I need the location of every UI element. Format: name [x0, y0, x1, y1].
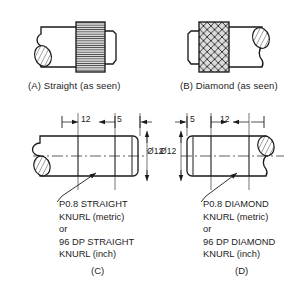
view-c-dim-5-label: 5 — [117, 114, 122, 124]
view-b-diamond-knurl-pictorial — [188, 22, 272, 72]
knurl-drawing-sheet: (A) Straight (as seen) (B) Diamond (as s… — [0, 0, 308, 295]
view-c-note-line-4: 96 DP STRAIGHT — [59, 236, 134, 249]
view-d-note-line-1: P0.8 DIAMOND — [203, 198, 275, 211]
view-d-dim-5-label: 5 — [190, 114, 195, 124]
view-a-straight-knurl-zone — [76, 22, 105, 72]
view-c-note-line-3: or — [59, 223, 134, 236]
view-d-note-line-5: KNURL (inch) — [203, 248, 275, 261]
view-d-note-line-3: or — [203, 223, 275, 236]
view-c-note-line-1: P0.8 STRAIGHT — [59, 198, 134, 211]
view-b-end-collar — [188, 31, 200, 64]
view-b-diamond-knurl-zone — [199, 22, 229, 72]
view-d-diamond-knurl-orthographic — [175, 113, 284, 202]
view-c-note-line-5: KNURL (inch) — [59, 248, 134, 261]
view-c-knurl-note: P0.8 STRAIGHT KNURL (metric) or 96 DP ST… — [59, 198, 134, 261]
view-d-knurl-note: P0.8 DIAMOND KNURL (metric) or 96 DP DIA… — [203, 198, 275, 261]
view-d-note-line-2: KNURL (metric) — [203, 211, 275, 224]
view-d-panel-label: (D) — [235, 265, 248, 276]
view-c-dim-12-label: 12 — [81, 114, 91, 124]
view-b-caption: (B) Diamond (as seen) — [180, 80, 278, 91]
view-d-dim-12-label: 12 — [220, 114, 230, 124]
view-c-straight-knurl-orthographic — [31, 113, 152, 202]
view-a-end-collar — [104, 31, 116, 64]
view-a-caption: (A) Straight (as seen) — [28, 80, 120, 91]
view-a-straight-knurl-pictorial — [32, 22, 116, 72]
view-d-note-line-4: 96 DP DIAMOND — [203, 236, 275, 249]
view-c-note-line-2: KNURL (metric) — [59, 211, 134, 224]
view-c-panel-label: (C) — [91, 265, 104, 276]
view-d-diameter-label: Ø12 — [160, 146, 176, 156]
